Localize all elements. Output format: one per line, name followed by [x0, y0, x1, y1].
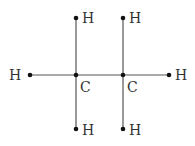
atom-label-h-c1-bottom: H [82, 122, 94, 138]
atom-label-c1: C [80, 79, 91, 95]
atom-dot-h-c2-bottom [121, 127, 126, 132]
atom-dot-h-c1-top [74, 16, 79, 21]
ethane-structure-diagram: H C C H H H H H [0, 0, 195, 146]
atom-dot-h-c2-top [121, 16, 126, 21]
atom-label-c2: C [127, 79, 138, 95]
atom-label-h-left: H [9, 67, 21, 83]
atom-dot-c2 [121, 73, 126, 78]
atom-dot-h-right [167, 73, 172, 78]
atom-dot-c1 [74, 73, 79, 78]
atom-label-h-right: H [175, 67, 187, 83]
atom-label-h-c2-top: H [129, 10, 141, 26]
atom-dot-h-left [28, 73, 33, 78]
atom-label-h-c1-top: H [82, 10, 94, 26]
atom-label-h-c2-bottom: H [129, 122, 141, 138]
atom-dot-h-c1-bottom [74, 127, 79, 132]
